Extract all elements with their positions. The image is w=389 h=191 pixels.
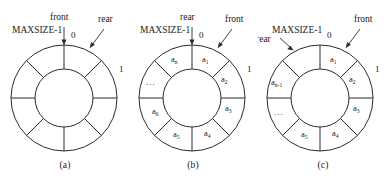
- cell-c-1: a1: [330, 54, 337, 65]
- maxsize-label-a: MAXSIZE-1: [12, 25, 62, 35]
- cell-c-3: a3: [353, 103, 360, 114]
- caption-b: (b): [128, 160, 258, 170]
- spoke-b-315: [155, 61, 172, 78]
- spoke-c-225: [283, 119, 300, 136]
- caption-a: (a): [0, 160, 130, 170]
- spoke-a-225: [27, 119, 44, 136]
- spoke-a-45: [85, 61, 102, 78]
- caption-c: (c): [258, 160, 388, 170]
- cell-b-6: a6: [152, 106, 159, 117]
- front-arrow-c: [348, 29, 360, 45]
- inner-ring-c: [291, 69, 349, 127]
- index-zero-c: 0: [327, 30, 332, 40]
- rear-arrow-a: [92, 29, 104, 45]
- index-zero-a: 0: [71, 30, 76, 40]
- cell-c-5: a5: [301, 129, 308, 140]
- spoke-b-225: [155, 119, 172, 136]
- index-one-c: 1: [375, 64, 380, 74]
- index-one-a: 1: [119, 64, 124, 74]
- front-arrow-b: [220, 29, 232, 45]
- front-label-c: front: [354, 14, 373, 24]
- spoke-b-135: [213, 119, 230, 136]
- cell-b-n: an: [171, 54, 178, 65]
- spoke-a-315: [27, 61, 44, 78]
- cell-c-ellipsis: ...: [274, 107, 284, 117]
- cell-b-4: a4: [204, 128, 211, 139]
- inner-ring-b: [163, 69, 221, 127]
- cell-c-2: a2: [349, 74, 356, 85]
- front-label-a: front: [50, 12, 69, 22]
- rear-label-c: rear: [258, 34, 272, 44]
- maxsize-label-c: MAXSIZE-1: [272, 25, 322, 35]
- maxsize-label-b: MAXSIZE-1: [140, 25, 190, 35]
- rear-arrowhead-c: [287, 46, 293, 51]
- circular-queue-figure: MAXSIZE-1 front rear 0 1 (a) MAX: [0, 0, 389, 191]
- panel-a: MAXSIZE-1 front rear 0 1 (a): [0, 0, 130, 191]
- cell-b-ellipsis: ...: [146, 77, 156, 87]
- cell-b-3: a3: [225, 103, 232, 114]
- spoke-c-135: [341, 119, 358, 136]
- rear-label-b: rear: [180, 12, 196, 22]
- inner-ring-a: [35, 69, 93, 127]
- rear-arrow-c: [280, 38, 291, 48]
- cell-c-n-1: an-1: [271, 77, 282, 88]
- front-label-b: front: [225, 14, 244, 24]
- index-zero-b: 0: [199, 30, 204, 40]
- cell-b-2: a2: [221, 74, 228, 85]
- spoke-a-135: [85, 119, 102, 136]
- panel-c: MAXSIZE-1 rear front 0 1 a1 a2 a3 a4 a5 …: [258, 0, 388, 191]
- rear-label-a: rear: [98, 14, 114, 24]
- cell-b-5: a5: [173, 129, 180, 140]
- cell-b-1: a1: [202, 54, 209, 65]
- cell-c-4: a4: [332, 128, 339, 139]
- panel-b: MAXSIZE-1 rear front 0 1 a1 a2 a3 a4 a5 …: [128, 0, 258, 191]
- index-one-b: 1: [247, 64, 252, 74]
- spoke-c-315: [283, 61, 300, 78]
